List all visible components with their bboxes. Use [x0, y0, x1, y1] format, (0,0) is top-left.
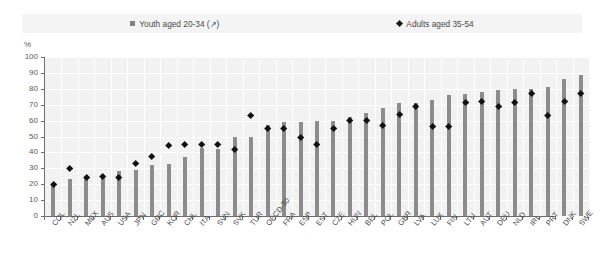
y-axis-tick: [41, 73, 44, 74]
vertical-gridline: [94, 57, 95, 216]
vertical-gridline: [210, 57, 211, 216]
bar: [216, 149, 220, 216]
vertical-gridline: [309, 57, 310, 216]
bar: [463, 94, 467, 216]
vertical-gridline: [127, 57, 128, 216]
x-axis-tick: [44, 217, 45, 220]
vertical-gridline: [177, 57, 178, 216]
bar: [51, 184, 55, 216]
y-axis-tick: [41, 89, 44, 90]
chart-legend: Youth aged 20-34 (↗) Adults aged 35-54: [22, 14, 582, 33]
bar: [331, 121, 335, 216]
vertical-gridline: [111, 57, 112, 216]
bar: [84, 178, 88, 216]
y-axis-tick-label: 80: [18, 85, 38, 93]
vertical-gridline: [358, 57, 359, 216]
y-axis-tick-label: 20: [18, 180, 38, 188]
plot-area: [45, 57, 589, 216]
vertical-gridline: [226, 57, 227, 216]
vertical-gridline: [259, 57, 260, 216]
vertical-gridline: [507, 57, 508, 216]
bar: [348, 117, 352, 216]
legend-item-adults: Adults aged 35-54: [397, 19, 473, 29]
bar: [266, 125, 270, 216]
bar: [529, 89, 533, 216]
bar: [200, 148, 204, 216]
y-axis-tick-label: 30: [18, 164, 38, 172]
bar: [397, 103, 401, 216]
y-axis-tick-label: 90: [18, 69, 38, 77]
y-axis-tick-label: 10: [18, 196, 38, 204]
bar: [364, 113, 368, 216]
diamond-marker-icon: [396, 20, 403, 27]
y-axis-tick: [41, 168, 44, 169]
vertical-gridline: [457, 57, 458, 216]
vertical-gridline: [375, 57, 376, 216]
vertical-gridline: [292, 57, 293, 216]
y-axis-tick-label: 100: [18, 53, 38, 61]
vertical-gridline: [523, 57, 524, 216]
vertical-gridline: [193, 57, 194, 216]
y-axis-tick-label: 60: [18, 117, 38, 125]
y-axis-tick: [41, 105, 44, 106]
vertical-gridline: [490, 57, 491, 216]
bar: [480, 92, 484, 216]
vertical-gridline: [474, 57, 475, 216]
legend-label-adults: Adults aged 35-54: [406, 19, 473, 29]
vertical-gridline: [424, 57, 425, 216]
bar: [315, 121, 319, 216]
vertical-gridline: [325, 57, 326, 216]
bar: [101, 176, 105, 216]
vertical-gridline: [160, 57, 161, 216]
chart-container: Youth aged 20-34 (↗) Adults aged 35-54 %…: [0, 0, 604, 276]
bar: [414, 103, 418, 216]
vertical-gridline: [243, 57, 244, 216]
bar: [249, 137, 253, 217]
y-axis-tick-label: 70: [18, 101, 38, 109]
y-axis-unit-label: %: [24, 40, 31, 49]
y-axis-tick: [41, 200, 44, 201]
vertical-gridline: [144, 57, 145, 216]
vertical-gridline: [408, 57, 409, 216]
legend-label-youth: Youth aged 20-34 (↗): [139, 19, 219, 29]
bar: [447, 95, 451, 216]
vertical-gridline: [441, 57, 442, 216]
vertical-gridline: [556, 57, 557, 216]
legend-item-youth: Youth aged 20-34 (↗): [130, 19, 219, 29]
y-axis-tick: [41, 152, 44, 153]
vertical-gridline: [78, 57, 79, 216]
bar: [150, 165, 154, 216]
square-marker-icon: [130, 21, 135, 26]
vertical-gridline: [342, 57, 343, 216]
y-axis-tick: [41, 121, 44, 122]
y-axis-tick-label: 40: [18, 148, 38, 156]
bar: [513, 89, 517, 216]
y-axis-line: [44, 57, 45, 217]
bar: [546, 87, 550, 216]
vertical-gridline: [61, 57, 62, 216]
bar: [430, 100, 434, 216]
vertical-gridline: [540, 57, 541, 216]
bar: [167, 164, 171, 216]
y-axis-tick: [41, 137, 44, 138]
y-axis-tick: [41, 184, 44, 185]
vertical-gridline: [391, 57, 392, 216]
y-axis-tick-label: 0: [18, 212, 38, 220]
bar: [183, 157, 187, 216]
bar: [68, 179, 72, 216]
y-axis-tick-label: 50: [18, 133, 38, 141]
vertical-gridline: [276, 57, 277, 216]
vertical-gridline: [573, 57, 574, 216]
bar: [134, 170, 138, 216]
y-axis-tick: [41, 57, 44, 58]
